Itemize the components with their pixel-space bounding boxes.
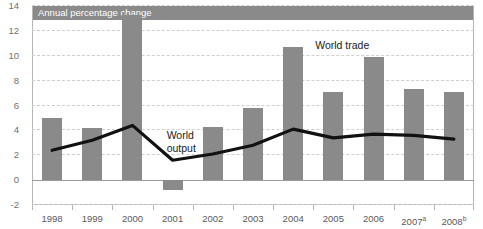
- x-axis-tick-mark: [233, 205, 234, 210]
- x-axis-tick-label: 2004: [283, 213, 304, 224]
- line-series-world-output: [32, 6, 474, 205]
- x-axis-tick-footnote-marker: b: [463, 215, 467, 222]
- plot-area: 14121086420-2 World trade World output: [32, 6, 474, 205]
- figure-top-caption: [30, 0, 450, 1]
- chart-figure: Annual percentage change 14121086420-2 W…: [0, 0, 483, 229]
- x-axis-tick-mark: [273, 205, 274, 210]
- x-axis-tick-label: 2005: [323, 213, 344, 224]
- series-label-world-output: World output: [167, 129, 213, 154]
- x-axis-tick-mark: [153, 205, 154, 210]
- x-axis-tick-mark: [193, 205, 194, 210]
- x-axis: 1998199920002001200220032004200520062007…: [32, 205, 474, 229]
- x-axis-tick-label: 2003: [242, 213, 263, 224]
- x-axis-tick-label: 1999: [82, 213, 103, 224]
- series-label-world-trade: World trade: [315, 39, 369, 52]
- y-axis-tick-label: 12: [0, 26, 19, 36]
- x-axis-tick-mark: [353, 205, 354, 210]
- x-axis-tick-label: 1998: [42, 213, 63, 224]
- x-axis-tick-mark: [434, 205, 435, 210]
- y-axis-tick-label: 14: [0, 1, 19, 11]
- x-axis-tick-label: 2008b: [442, 213, 467, 227]
- x-axis-tick-label: 2002: [202, 213, 223, 224]
- y-axis-tick-label: 2: [0, 150, 19, 160]
- x-axis-tick-mark: [112, 205, 113, 210]
- y-axis-tick-label: 8: [0, 76, 19, 86]
- y-axis-tick-label: 0: [0, 175, 19, 185]
- x-axis-tick-mark: [72, 205, 73, 210]
- y-axis-tick-label: 10: [0, 51, 19, 61]
- x-axis-tick-label: 2000: [122, 213, 143, 224]
- x-axis-tick-mark: [313, 205, 314, 210]
- y-axis-tick-label: -2: [0, 200, 19, 210]
- x-axis-tick-label: 2001: [162, 213, 183, 224]
- x-axis-tick-footnote-marker: a: [422, 215, 426, 222]
- x-axis-tick-label: 2007a: [401, 213, 426, 227]
- x-axis-tick-label: 2006: [363, 213, 384, 224]
- x-axis-tick-mark: [473, 205, 474, 210]
- x-axis-tick-mark: [394, 205, 395, 210]
- y-axis-tick-label: 4: [0, 125, 19, 135]
- x-axis-tick-mark: [32, 205, 33, 210]
- y-axis-tick-label: 6: [0, 101, 19, 111]
